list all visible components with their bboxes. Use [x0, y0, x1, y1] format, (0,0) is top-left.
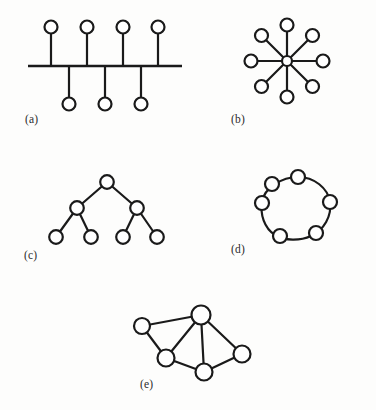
tree-topology-svg [46, 166, 172, 252]
tree-node-branch-right [130, 201, 144, 215]
mesh-edges [142, 315, 242, 372]
ring-node-5 [255, 196, 269, 210]
bus-node-top-4 [152, 21, 165, 34]
star-node-w [245, 55, 258, 68]
tree-nodes [49, 175, 164, 244]
mesh-nodes [134, 306, 251, 381]
bus-node-bottom-1 [63, 98, 76, 111]
panel-label-b: (b) [231, 113, 245, 125]
bus-topology-svg [24, 14, 190, 118]
star-node-nw [255, 29, 268, 42]
mesh-node-4 [196, 364, 213, 381]
tree-node-leaf-3 [116, 230, 130, 244]
ring-node-3 [309, 226, 323, 240]
diagram-mesh-topology [128, 304, 260, 388]
mesh-node-3 [158, 350, 175, 367]
star-node-n [281, 19, 294, 32]
star-node-s [281, 91, 294, 104]
diagram-tree-topology [46, 166, 172, 252]
star-center-node [282, 56, 292, 66]
ring-node-4 [273, 229, 287, 243]
ring-topology-svg [252, 166, 344, 258]
star-node-se [306, 80, 319, 93]
diagram-star-topology [236, 10, 340, 114]
tree-node-root [100, 175, 114, 189]
bus-node-top-3 [117, 21, 130, 34]
bus-node-bottom-2 [99, 98, 112, 111]
panel-label-d: (d) [231, 243, 245, 255]
mesh-node-5 [234, 346, 251, 363]
star-topology-svg [236, 10, 340, 114]
star-node-sw [255, 80, 268, 93]
diagram-bus-topology [24, 14, 190, 118]
tree-node-leaf-2 [84, 230, 98, 244]
mesh-node-1 [134, 318, 150, 334]
ring-node-2 [323, 195, 337, 209]
ring-node-6 [265, 177, 279, 191]
tree-node-leaf-1 [49, 230, 63, 244]
star-node-ne [306, 29, 319, 42]
panel-label-a: (a) [25, 113, 38, 125]
topology-figure: (a) [0, 0, 376, 410]
panel-label-c: (c) [24, 249, 37, 261]
ring-node-1 [291, 170, 305, 184]
panel-label-e: (e) [140, 378, 153, 390]
star-node-e [317, 55, 330, 68]
bus-node-bottom-3 [135, 98, 148, 111]
bus-node-top-2 [81, 21, 94, 34]
bus-node-top-1 [45, 21, 58, 34]
ring-nodes [255, 170, 337, 243]
tree-node-leaf-4 [150, 230, 164, 244]
mesh-node-2 [192, 306, 211, 325]
diagram-ring-topology [252, 166, 344, 258]
tree-node-branch-left [70, 201, 84, 215]
mesh-topology-svg [128, 304, 260, 388]
